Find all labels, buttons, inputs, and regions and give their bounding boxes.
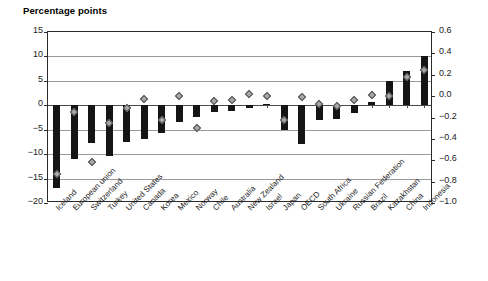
y-axis-label-left: −10 (10, 147, 43, 157)
data-point-marker (263, 92, 271, 100)
y-axis-tick-right (431, 160, 435, 161)
y-axis-label-right: 0.4 (439, 46, 473, 56)
y-axis-label-right: −0.2 (439, 111, 473, 121)
y-axis-label-right: −0.6 (439, 153, 473, 163)
y-axis-tick-right (431, 118, 435, 119)
y-axis-tick-left (44, 179, 48, 180)
data-point-marker (298, 93, 306, 101)
x-axis-tick (389, 105, 390, 108)
y-axis-tick-left (44, 81, 48, 82)
data-point-marker (228, 96, 236, 104)
y-axis-tick-right (431, 53, 435, 54)
x-axis-tick (407, 105, 408, 108)
x-axis-tick (372, 105, 373, 108)
data-point-marker (88, 158, 96, 166)
data-point-marker (350, 96, 358, 104)
bar (351, 105, 358, 112)
bar (263, 104, 270, 105)
data-point-marker (245, 90, 253, 98)
gridline (48, 81, 431, 82)
chart-axis-title: Percentage points (23, 5, 107, 16)
data-point-marker (193, 124, 201, 132)
bar (88, 105, 95, 143)
bar (246, 105, 253, 108)
bar (368, 102, 375, 105)
bar (228, 105, 235, 111)
bar (141, 105, 148, 139)
y-axis-tick-left (44, 32, 48, 33)
y-axis-tick-right (431, 182, 435, 183)
y-axis-label-left: 5 (10, 74, 43, 84)
y-axis-label-right: −0.4 (439, 132, 473, 142)
bar (193, 105, 200, 117)
chart-figure: Percentage points PSE% change NPC change… (0, 0, 488, 281)
x-axis-tick (267, 105, 268, 108)
data-point-marker (140, 95, 148, 103)
data-point-marker (175, 92, 183, 100)
bar (298, 105, 305, 144)
y-axis-label-left: 10 (10, 49, 43, 59)
y-axis-label-left: 0 (10, 98, 43, 108)
y-axis-label-right: 0.0 (439, 89, 473, 99)
y-axis-tick-right (431, 32, 435, 33)
y-axis-tick-right (431, 139, 435, 140)
y-axis-label-right: 0.6 (439, 25, 473, 35)
x-axis-tick (424, 105, 425, 108)
y-axis-label-left: 15 (10, 25, 43, 35)
y-axis-tick-right (431, 96, 435, 97)
y-axis-tick-left (44, 154, 48, 155)
y-axis-tick-left (44, 56, 48, 57)
y-axis-label-right: −1.0 (439, 196, 473, 206)
y-axis-tick-left (44, 203, 48, 204)
gridline (48, 56, 431, 57)
data-point-marker (368, 91, 376, 99)
y-axis-tick-left (44, 130, 48, 131)
bar (211, 105, 218, 112)
bar (106, 105, 113, 155)
y-axis-tick-left (44, 105, 48, 106)
bar (176, 105, 183, 122)
bar (421, 56, 428, 105)
y-axis-label-left: −15 (10, 172, 43, 182)
y-axis-tick-right (431, 75, 435, 76)
y-axis-label-left: −20 (10, 196, 43, 206)
y-axis-label-right: 0.2 (439, 68, 473, 78)
y-axis-label-left: −5 (10, 123, 43, 133)
